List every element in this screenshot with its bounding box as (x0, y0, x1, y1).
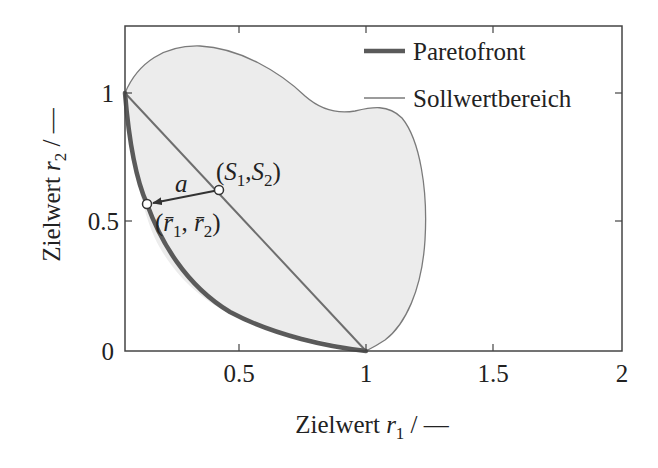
x-tick-label: 1 (360, 360, 373, 387)
point-s1-s2 (215, 186, 224, 195)
legend: Paretofront Sollwertbereich (364, 38, 572, 112)
x-axis-label: Zielwert r1 / — (295, 411, 450, 443)
pareto-chart: 0.5 1 1.5 2 0 0.5 1 Zielwert r1 / — Ziel… (0, 0, 658, 468)
y-tick-label: 0 (102, 338, 115, 365)
legend-label-sollwertbereich: Sollwertbereich (413, 85, 572, 112)
y-tick-label: 0.5 (88, 208, 119, 235)
legend-label-paretofront: Paretofront (413, 38, 526, 65)
x-tick-label: 0.5 (223, 360, 254, 387)
arrow-label-a: a (175, 170, 188, 197)
y-axis-label: Zielwert r2 / — (38, 107, 70, 262)
point-r1-r2 (143, 200, 152, 209)
x-tick-label: 1.5 (477, 360, 508, 387)
y-tick-label: 1 (102, 80, 115, 107)
x-tick-label: 2 (616, 360, 629, 387)
sollwertbereich-region (125, 46, 426, 351)
